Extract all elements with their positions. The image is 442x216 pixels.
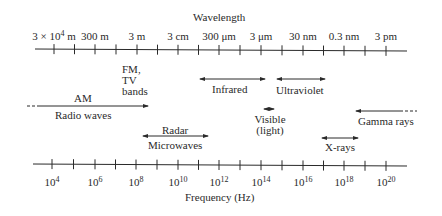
wavelength-axis xyxy=(35,44,407,56)
tick-label: 1014 xyxy=(252,177,271,188)
tick-label: 30 nm xyxy=(289,31,317,42)
tick-label: 1012 xyxy=(210,177,229,188)
tick-label: 3 μm xyxy=(250,31,273,42)
tick-label: 300 m xyxy=(81,31,109,42)
gamma-rays-label: Gamma rays xyxy=(358,116,414,127)
radar-label: Radar xyxy=(162,125,188,136)
tick-label: 3 × 104 m xyxy=(32,31,76,42)
infrared-label: Infrared xyxy=(212,84,247,95)
tick-label: 0.3 nm xyxy=(329,31,360,42)
fm-tv-line-3: bands xyxy=(122,86,148,97)
ultraviolet-label: Ultraviolet xyxy=(276,85,324,96)
microwaves-label: Microwaves xyxy=(148,140,202,151)
tick-label: 300 μm xyxy=(202,31,236,42)
tick-label: 3 pm xyxy=(375,31,397,42)
tick-label: 1010 xyxy=(169,177,188,188)
tick-label: 1018 xyxy=(335,177,354,188)
frequency-axis-title: Frequency (Hz) xyxy=(185,192,254,203)
visible-line-2: (light) xyxy=(254,125,285,136)
radio-waves-label: Radio waves xyxy=(55,110,112,121)
tick-label: 106 xyxy=(88,177,103,188)
em-spectrum-diagram: Wavelength Frequency (Hz) 3 × 104 m300 m… xyxy=(0,0,442,216)
visible-light-label: Visible (light) xyxy=(254,114,285,136)
am-label: AM xyxy=(74,93,92,104)
tick-label: 3 cm xyxy=(167,31,189,42)
frequency-axis xyxy=(33,159,407,171)
tick-label: 104 xyxy=(45,177,60,188)
tick-label: 1016 xyxy=(294,177,313,188)
tick-label: 108 xyxy=(129,177,144,188)
x-rays-label: X-rays xyxy=(325,142,355,153)
tick-label: 3 m xyxy=(129,31,146,42)
tick-label: 1020 xyxy=(377,177,396,188)
wavelength-axis-title: Wavelength xyxy=(193,12,245,23)
fm-tv-bands-label: FM, TV bands xyxy=(122,64,148,97)
